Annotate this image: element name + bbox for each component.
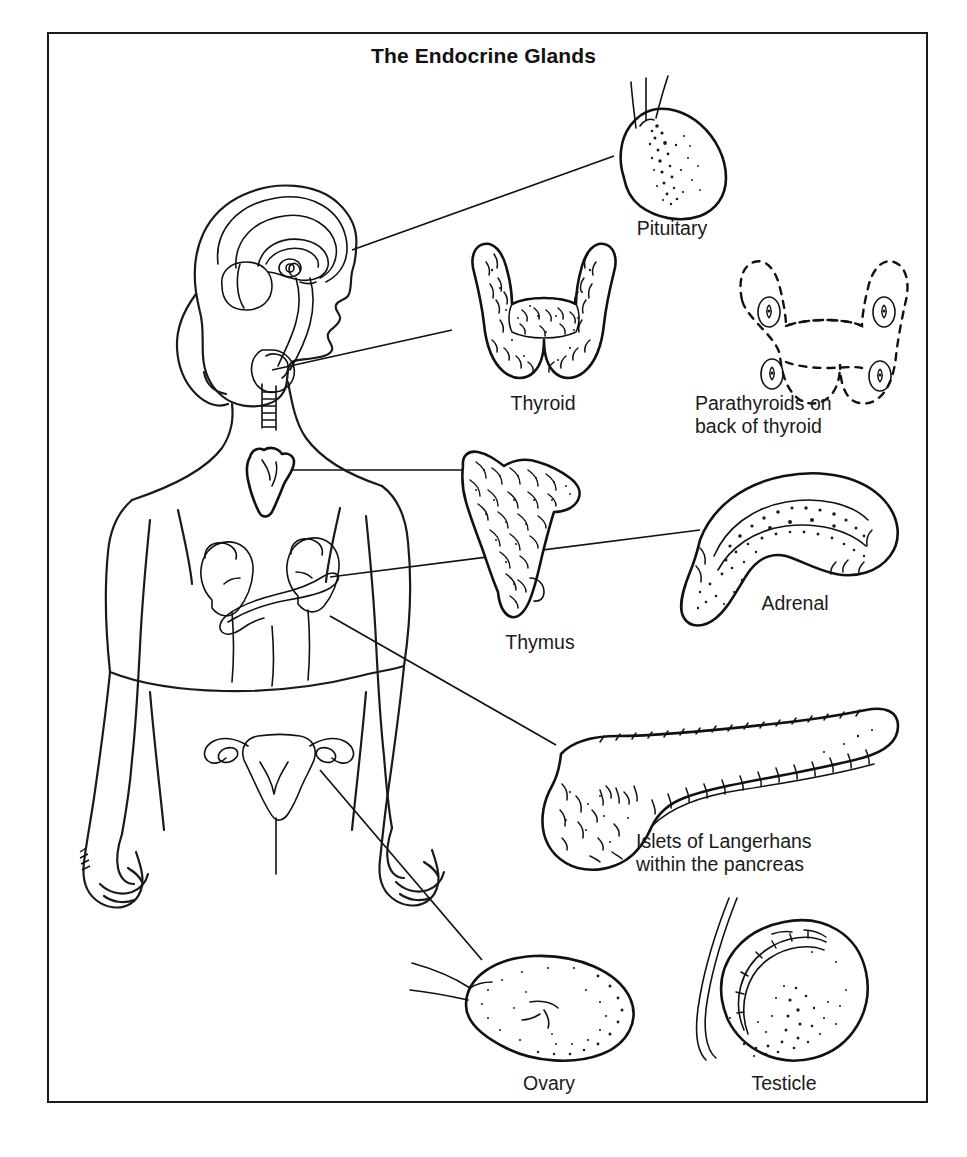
label-pancreas-line2: within the pancreas: [636, 853, 804, 876]
label-thyroid: Thyroid: [510, 392, 575, 415]
label-thymus: Thymus: [505, 631, 574, 654]
figure-border: [47, 32, 928, 1103]
label-adrenal: Adrenal: [761, 592, 828, 615]
label-testicle: Testicle: [751, 1072, 816, 1095]
endocrine-glands-figure: The Endocrine Glands: [0, 0, 967, 1157]
label-pituitary: Pituitary: [637, 217, 707, 240]
page-title: The Endocrine Glands: [0, 44, 967, 68]
label-parathyroids-line1: Parathyroids on: [695, 392, 832, 415]
label-parathyroids-line2: back of thyroid: [695, 415, 822, 438]
label-ovary: Ovary: [523, 1072, 575, 1095]
label-pancreas-line1: Islets of Langerhans: [636, 830, 812, 853]
